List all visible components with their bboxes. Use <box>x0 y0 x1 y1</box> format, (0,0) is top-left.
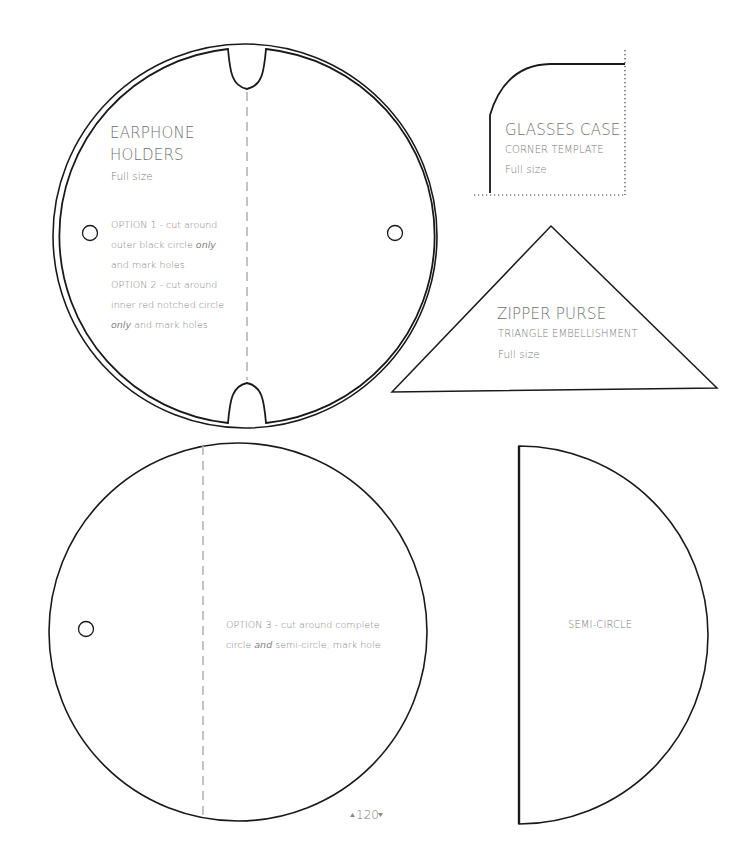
zipper-size: Full size <box>498 348 540 360</box>
semicircle-shape <box>519 446 708 824</box>
earphone-title-line2: HOLDERS <box>110 144 184 166</box>
earphone-option1-line3: and mark holes <box>111 255 185 275</box>
glasses-subtitle: CORNER TEMPLATE <box>505 144 604 155</box>
earphone-hole-right <box>388 226 403 241</box>
option3-hole <box>79 622 94 637</box>
option3-text-b: semi-circle; mark hole <box>272 639 380 650</box>
glasses-title: GLASSES CASE <box>505 119 621 141</box>
option2-emphasis: only <box>111 319 131 330</box>
earphone-size: Full size <box>111 170 153 182</box>
option1-text: outer black circle <box>111 239 196 250</box>
earphone-option1-line2: outer black circle only <box>111 235 216 255</box>
glasses-size: Full size <box>505 163 547 175</box>
earphone-hole-left <box>83 226 98 241</box>
zipper-title: ZIPPER PURSE <box>497 303 606 325</box>
option3-line1: OPTION 3 - cut around complete <box>226 615 380 635</box>
earphone-option1-line1: OPTION 1 - cut around <box>111 215 217 235</box>
option1-emphasis: only <box>196 239 216 250</box>
zipper-subtitle: TRIANGLE EMBELLISHMENT <box>498 328 638 339</box>
semicircle-label: SEMI-CIRCLE <box>568 619 632 630</box>
option3-line2: circle and semi-circle; mark hole <box>226 635 381 655</box>
page-number: 120 <box>356 808 379 822</box>
earphone-option2-line2: inner red notched circle <box>111 295 224 315</box>
page-number-up-arrow-icon <box>350 813 355 817</box>
option3-text-a: circle <box>226 639 254 650</box>
earphone-option2-line3: only and mark holes <box>111 315 208 335</box>
option2-text: and mark holes <box>131 319 208 330</box>
earphone-title-line1: EARPHONE <box>110 122 195 144</box>
earphone-option2-line1: OPTION 2 - cut around <box>111 275 217 295</box>
option3-emphasis: and <box>254 639 272 650</box>
